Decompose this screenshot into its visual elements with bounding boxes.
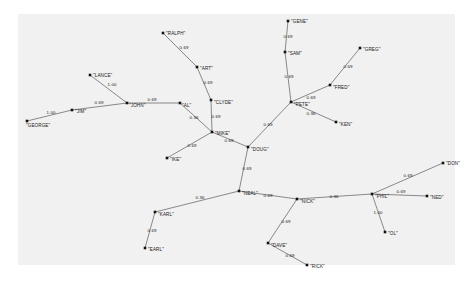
graph-node-label: "PHIL" — [375, 194, 389, 199]
graph-node-label: "ART" — [200, 66, 213, 71]
graph-node-label: "GEORGE" — [26, 123, 50, 128]
graph-node-marker — [210, 99, 213, 102]
graph-node-marker — [335, 121, 338, 124]
graph-node-label: "DON" — [446, 161, 460, 166]
edge-weight-label: 0.69 — [397, 189, 406, 194]
graph-node-label: "JOHN" — [129, 103, 146, 108]
nodes-group — [26, 20, 445, 267]
network-graph-figure: 1.000.691.000.690.690.690.690.360.690.69… — [0, 0, 473, 285]
graph-node-marker — [162, 32, 165, 35]
graph-node-label: "NICK" — [300, 199, 315, 204]
graph-node-label: "SAM" — [288, 51, 302, 56]
graph-node-marker — [144, 247, 147, 250]
graph-node-marker — [290, 101, 293, 104]
graph-node-label: "LANCE" — [93, 73, 113, 78]
edge-weight-label: 0.69 — [148, 228, 157, 233]
graph-node-label: "IKE" — [170, 157, 181, 162]
edge-weight-label: 0.36 — [190, 115, 199, 120]
graph-node-label: "OL" — [388, 231, 398, 236]
edge-weight-label: 0.69 — [307, 95, 316, 100]
edge-weight-label: 0.36 — [196, 195, 205, 200]
graph-node-label: "NED" — [430, 195, 444, 200]
edge-weight-label: 0.69 — [148, 97, 157, 102]
edge-weight-label: 1.00 — [108, 82, 117, 87]
graph-node-marker — [89, 74, 92, 77]
graph-node-label: "MIKE" — [215, 131, 230, 136]
graph-node-marker — [442, 162, 445, 165]
edge-weight-label: 0.69 — [243, 166, 252, 171]
edge-weight-label: 0.69 — [404, 173, 413, 178]
edge-labels-group: 1.000.691.000.690.690.690.690.360.690.69… — [47, 34, 413, 258]
graph-node-label: "GREG" — [363, 47, 381, 52]
edge-weight-label: 0.69 — [264, 193, 273, 198]
edge-weight-label: 0.69 — [95, 100, 104, 105]
edge-weight-label: 0.69 — [286, 253, 295, 258]
graph-node-label: "KEN" — [339, 122, 352, 127]
edges-group — [27, 21, 443, 265]
edge-weight-label: 0.69 — [180, 45, 189, 50]
edge-weight-label: 0.69 — [282, 219, 291, 224]
graph-node-label: "EARL" — [148, 247, 164, 252]
graph-node-marker — [384, 231, 387, 234]
graph-node-label: "FRED" — [333, 85, 350, 90]
graph-node-label: "DAVE" — [271, 243, 287, 248]
graph-node-marker — [267, 242, 270, 245]
graph-node-marker — [329, 84, 332, 87]
edge-weight-label: 1.00 — [47, 110, 56, 115]
graph-edge — [90, 75, 127, 103]
graph-node-marker — [154, 211, 157, 214]
edge-weight-label: 0.36 — [307, 111, 316, 116]
graph-node-marker — [179, 102, 182, 105]
graph-node-marker — [211, 131, 214, 134]
edge-weight-label: 0.69 — [212, 114, 221, 119]
edge-weight-label: 0.69 — [284, 34, 293, 39]
edge-weight-label: 0.69 — [285, 74, 294, 79]
graph-node-marker — [247, 146, 250, 149]
graph-node-label: "NEAL" — [242, 191, 258, 196]
graph-node-label: "RALPH" — [166, 31, 186, 36]
graph-node-label: "GENE" — [291, 19, 308, 24]
edge-weight-label: 0.69 — [264, 122, 273, 127]
edge-weight-label: 1.00 — [374, 210, 383, 215]
edge-weight-label: 0.69 — [188, 143, 197, 148]
graph-node-marker — [306, 264, 309, 267]
graph-node-label: "CLYDE" — [214, 100, 233, 105]
graph-node-marker — [359, 47, 362, 50]
graph-node-label: "PETE" — [294, 102, 310, 107]
edge-weight-label: 0.69 — [344, 64, 353, 69]
graph-node-marker — [287, 20, 290, 23]
edge-weight-label: 0.36 — [330, 194, 339, 199]
graph-edge — [372, 163, 443, 194]
graph-node-marker — [371, 193, 374, 196]
graph-node-marker — [196, 66, 199, 69]
graph-node-marker — [426, 195, 429, 198]
graph-node-label: "AL" — [182, 103, 192, 108]
graph-node-marker — [238, 190, 241, 193]
graph-node-label: "KARL" — [158, 212, 174, 217]
edge-weight-label: 0.69 — [225, 138, 234, 143]
graph-node-marker — [166, 157, 169, 160]
graph-node-marker — [296, 198, 299, 201]
graph-node-label: "DOUG" — [251, 147, 269, 152]
edge-weight-label: 0.69 — [204, 80, 213, 85]
graph-node-marker — [26, 120, 29, 123]
graph-node-label: "JIM" — [75, 109, 86, 114]
graph-node-label: "RICK" — [310, 264, 325, 269]
graph-node-marker — [284, 51, 287, 54]
graph-node-marker — [71, 109, 74, 112]
graph-canvas: 1.000.691.000.690.690.690.690.360.690.69… — [0, 0, 473, 285]
node-labels-group: "GEORGE""JIM""LANCE""JOHN""AL""RALPH""AR… — [26, 19, 460, 269]
graph-edge — [163, 33, 197, 67]
graph-node-marker — [126, 102, 129, 105]
